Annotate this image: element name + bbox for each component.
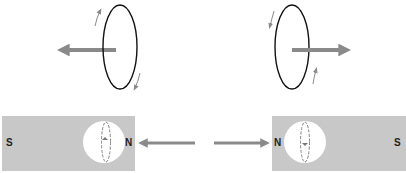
magnet-right-window: [284, 121, 326, 163]
current-arrow-top-right: [270, 11, 274, 26]
magnet-left-pole-n: N: [125, 137, 132, 148]
current-loop-right: [275, 5, 309, 89]
current-loop-left: [103, 5, 137, 89]
magnet-left: S N: [2, 116, 195, 171]
magnet-right-pole-s: S: [394, 137, 401, 148]
current-arrow-bottom-left: [135, 73, 140, 88]
magnet-left-window: [83, 121, 125, 163]
magnet-left-pole-s: S: [6, 137, 13, 148]
current-arrow-top-left: [95, 11, 100, 26]
top-left-loop-group: [62, 5, 140, 89]
magnet-right: N S: [214, 116, 406, 171]
top-right-loop-group: [270, 5, 346, 89]
current-arrow-bottom-right: [313, 70, 316, 84]
diagram-canvas: S N N S: [0, 0, 406, 173]
magnet-right-pole-n: N: [274, 137, 281, 148]
